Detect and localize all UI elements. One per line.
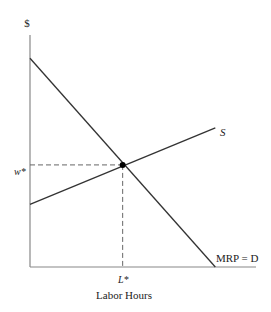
quantity-label: L* xyxy=(117,274,129,285)
labor-market-diagram: $ Labor Hours S MRP = D w* L* xyxy=(0,0,271,312)
y-axis-label: $ xyxy=(24,17,30,29)
supply-label: S xyxy=(220,126,226,138)
equilibrium-point xyxy=(120,162,126,168)
x-axis-label: Labor Hours xyxy=(96,289,152,301)
wage-label: w* xyxy=(14,166,26,177)
demand-label: MRP = D xyxy=(216,252,259,264)
